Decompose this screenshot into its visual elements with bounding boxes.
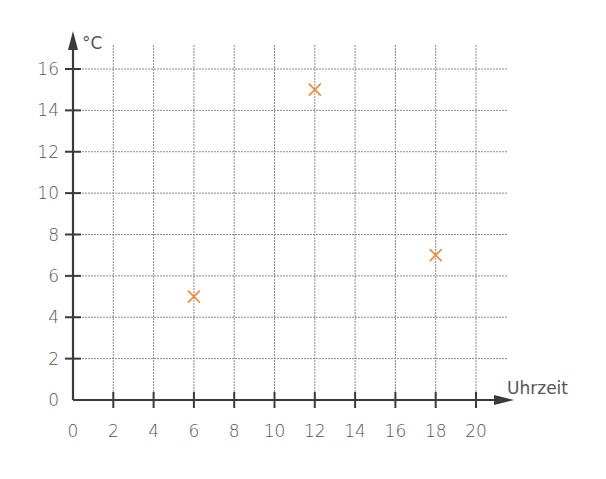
grid-lines [73,45,508,400]
y-tick-label: 8 [48,225,59,245]
x-tick-label: 14 [344,421,366,441]
x-tick-label: 10 [264,421,286,441]
y-tick-label: 10 [37,183,59,203]
x-tick-labels: 02468101214161820 [68,421,487,441]
y-tick-labels: 0246810121416 [37,59,59,410]
x-tick-label: 6 [188,421,199,441]
y-tick-label: 2 [48,349,59,369]
y-tick-label: 14 [37,100,59,120]
axes [68,31,514,405]
y-tick-label: 0 [48,390,59,410]
x-tick-label: 0 [68,421,79,441]
x-tick-label: 20 [465,421,487,441]
x-tick-label: 16 [385,421,407,441]
y-axis-arrow-icon [68,31,78,50]
x-axis-title: Uhrzeit [507,378,568,398]
x-tick-label: 2 [108,421,119,441]
y-axis-title: °C [82,33,102,53]
x-tick-label: 12 [304,421,326,441]
y-tick-label: 6 [48,266,59,286]
x-tick-label: 18 [425,421,447,441]
x-tick-label: 8 [229,421,240,441]
y-tick-label: 16 [37,59,59,79]
temperature-chart: 02468101214161820 0246810121416 °C Uhrze… [0,0,606,479]
axis-ticks [65,69,476,408]
y-tick-label: 12 [37,142,59,162]
x-tick-label: 4 [148,421,159,441]
y-tick-label: 4 [48,307,59,327]
